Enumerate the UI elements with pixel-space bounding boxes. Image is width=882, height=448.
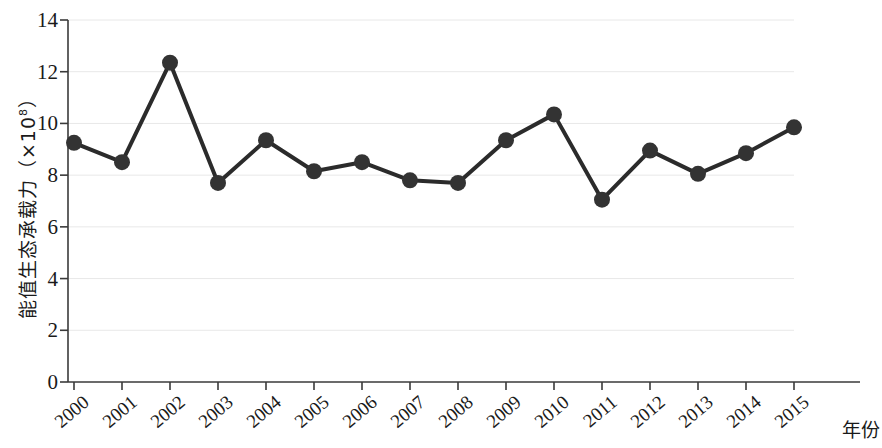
x-tick-label: 2009 (468, 392, 525, 444)
x-tick-label: 2011 (564, 392, 621, 444)
x-tick-label: 2004 (228, 392, 285, 444)
x-tick-label: 2014 (708, 392, 765, 444)
x-tick-label: 2013 (660, 392, 717, 444)
x-tick-label: 2001 (84, 392, 141, 444)
x-tick-label: 2012 (612, 392, 669, 444)
x-tick-label: 2008 (420, 392, 477, 444)
x-tick-label: 2007 (372, 392, 429, 444)
energy-ecological-carrying-capacity-chart: 能值生态承载力（×108） 14 12 10 8 6 4 2 0 2000200… (0, 0, 882, 448)
x-tick-label: 2005 (276, 392, 333, 444)
x-axis-title: 年份 (842, 415, 880, 442)
x-tick-label: 2010 (516, 392, 573, 444)
x-tick-label: 2000 (36, 392, 93, 444)
x-tick-label: 2003 (180, 392, 237, 444)
x-tick-label: 2006 (324, 392, 381, 444)
x-tick-label: 2015 (756, 392, 813, 444)
x-axis-tick-labels: 2000200120022003200420052006200720082009… (0, 0, 882, 448)
x-tick-label: 2002 (132, 392, 189, 444)
